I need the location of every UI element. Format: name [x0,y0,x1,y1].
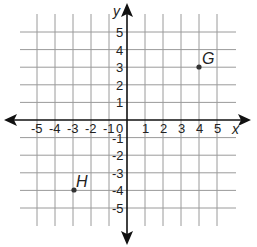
origin-label: 0 [116,121,123,136]
coordinate-plane: -5-4-3-2-112345 12345-1-2-3-4-5 0 x y G … [0,0,257,247]
x-tick-label: 5 [214,121,221,136]
y-tick-label: -5 [112,201,124,216]
x-tick-labels: -5-4-3-2-112345 [31,121,221,136]
x-tick-label: -3 [67,121,79,136]
y-tick-label: -3 [112,166,124,181]
x-tick-label: 3 [178,121,185,136]
point-g-dot [196,64,201,69]
y-tick-label: -2 [112,148,124,163]
x-tick-label: 2 [160,121,167,136]
y-tick-label: -4 [112,183,124,198]
x-tick-label: -2 [85,121,97,136]
x-axis-name: x [231,121,240,137]
y-tick-label: 1 [116,95,123,110]
x-tick-label: -5 [31,121,43,136]
x-tick-label: -4 [49,121,61,136]
point-h: H [71,173,88,193]
point-h-label: H [76,173,88,190]
x-tick-label: 4 [196,121,203,136]
x-tick-label: 1 [142,121,149,136]
y-tick-label: 3 [116,60,123,75]
point-g-label: G [202,50,214,67]
y-tick-label: 4 [116,43,123,58]
y-axis-name: y [112,3,121,19]
y-tick-label: 2 [116,78,123,93]
y-tick-label: 5 [116,25,123,40]
